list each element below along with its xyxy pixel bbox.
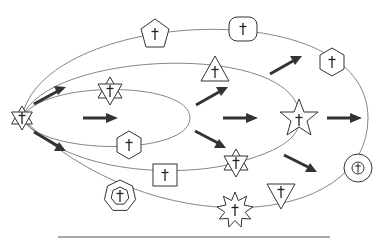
- arrow-icon: [223, 113, 258, 123]
- orbit-diagram: [0, 0, 386, 245]
- arrow-icon: [195, 131, 226, 148]
- orbit-4: [22, 118, 300, 171]
- orbits: [22, 29, 368, 207]
- rounded-square-icon: [229, 17, 257, 41]
- arrow-icon: [327, 113, 362, 123]
- hexagram-bottom-icon: [224, 149, 248, 177]
- star-icon: [280, 99, 318, 135]
- arrow-icon: [284, 155, 317, 172]
- heptagon-icon: [104, 180, 135, 210]
- starburst-icon: [217, 192, 253, 227]
- orbit-2: [22, 63, 300, 118]
- square-icon: [153, 164, 177, 186]
- arrow-icon: [83, 113, 118, 123]
- triangle-icon: [201, 56, 229, 81]
- arrow-icon: [270, 56, 302, 74]
- arrow-icon: [34, 132, 66, 151]
- pentagon-icon: [141, 19, 169, 47]
- hexagram-icon: [98, 77, 122, 105]
- arrow-icon: [196, 87, 228, 105]
- orbit-3: [22, 29, 368, 207]
- hexagon-inner-icon: [117, 131, 141, 159]
- circle-icon: [344, 154, 372, 182]
